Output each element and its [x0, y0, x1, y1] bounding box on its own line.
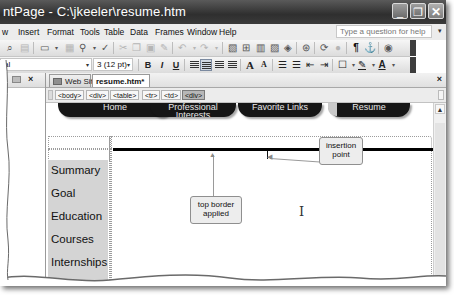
stop-icon[interactable]: ●	[332, 42, 344, 54]
toolbar-separator	[272, 59, 273, 71]
menu-insert[interactable]: Insert	[18, 27, 39, 37]
insert-drawing-icon[interactable]: ◈	[282, 42, 294, 54]
bold-button[interactable]: B	[142, 59, 154, 71]
help-dropdown-icon[interactable]: ▾	[438, 27, 442, 35]
toolbar-separator	[378, 42, 379, 54]
callout-text: applied	[193, 209, 239, 218]
tag-div-selected[interactable]: <div>	[182, 90, 205, 100]
vertical-scrollbar[interactable]: ▲	[433, 103, 446, 286]
bookmark-icon[interactable]: ⚓	[364, 42, 376, 54]
justify-button[interactable]	[226, 59, 238, 71]
menu-view[interactable]: w	[2, 27, 8, 37]
insert-table-icon[interactable]: ⊞	[240, 42, 252, 54]
tab-web-site[interactable]: Web Site	[49, 74, 91, 87]
tab-label: resume.htm*	[96, 77, 144, 86]
close-button[interactable]: ✕	[428, 3, 444, 19]
torn-edge	[0, 270, 446, 286]
torn-edge-left	[0, 60, 14, 280]
restore-button[interactable]: ❐	[410, 3, 426, 19]
toolbar-options-grip[interactable]	[410, 57, 416, 73]
menu-format[interactable]: Format	[47, 27, 74, 37]
insert-layer-icon[interactable]: ▧	[226, 42, 238, 54]
side-item-goal[interactable]: Goal	[51, 187, 75, 199]
format-painter-icon[interactable]: ✎	[158, 42, 170, 54]
align-left-icon	[190, 61, 199, 69]
underline-button[interactable]: U	[170, 59, 182, 71]
tag-tr[interactable]: <tr>	[142, 90, 160, 100]
italic-button[interactable]: I	[156, 59, 168, 71]
menu-data[interactable]: Data	[130, 27, 148, 37]
paste-icon[interactable]: ▣	[144, 42, 156, 54]
align-right-icon	[215, 61, 224, 69]
top-border-line	[113, 148, 433, 151]
content-cell[interactable]	[110, 149, 432, 286]
scroll-thumb[interactable]	[435, 123, 445, 283]
design-view[interactable]: Home Professional Interests Favorite Lin…	[46, 103, 446, 286]
redo-icon[interactable]: ↷	[198, 42, 210, 54]
side-item-education[interactable]: Education	[51, 210, 102, 222]
side-item-internships[interactable]: Internships	[51, 256, 107, 268]
increase-font-button[interactable]: A	[244, 59, 256, 71]
undo-icon[interactable]: ↶	[176, 42, 188, 54]
menu-window[interactable]: Window	[187, 27, 217, 37]
column-divider	[109, 136, 112, 286]
minimize-button[interactable]: _	[392, 3, 408, 19]
insert-frame-icon[interactable]: ▥	[254, 42, 266, 54]
tag-bar-scroll[interactable]	[438, 90, 444, 100]
tag-table[interactable]: <table>	[110, 90, 139, 100]
toolbar-options-grip[interactable]	[410, 40, 416, 56]
numbering-icon[interactable]: ☰	[276, 59, 288, 71]
refresh-icon[interactable]: ⟳	[318, 42, 330, 54]
document-tabs: Web Site resume.htm* ×	[46, 73, 446, 88]
table-cell[interactable]	[48, 136, 110, 149]
chevron-down-icon: ▾	[86, 59, 89, 71]
menu-tools[interactable]: Tools	[80, 27, 100, 37]
nav-button-favorite-links[interactable]: Favorite Links	[238, 103, 322, 117]
show-all-icon[interactable]: ¶	[350, 42, 362, 54]
print-preview-icon[interactable]: ▤	[18, 42, 30, 54]
insert-picture-icon[interactable]: ▨	[268, 42, 280, 54]
tag-div[interactable]: <div>	[86, 90, 109, 100]
nav-button-resume[interactable]: Resume	[328, 103, 410, 117]
dropdown-icon[interactable]: ▾	[50, 42, 62, 54]
align-center-button[interactable]	[200, 59, 212, 71]
increase-indent-icon[interactable]: ⇥	[318, 59, 330, 71]
menu-help[interactable]: Help	[219, 27, 236, 37]
toolbar-separator	[172, 42, 173, 54]
formatting-toolbar: al ▾ 3 (12 pt) ▾ B I U A A ☰ ☰ ⇤ ⇥ ☐ ▾ ✎…	[0, 57, 410, 74]
search-icon[interactable]: ⚲	[76, 42, 88, 54]
view-icon[interactable]: ▭	[38, 42, 50, 54]
bullets-icon[interactable]: ☰	[290, 59, 302, 71]
font-size-select[interactable]: 3 (12 pt) ▾	[93, 58, 133, 71]
menu-table[interactable]: Table	[104, 27, 124, 37]
spelling-icon[interactable]: ✓	[99, 42, 111, 54]
tab-resume[interactable]: resume.htm*	[92, 74, 150, 87]
align-right-button[interactable]	[213, 59, 225, 71]
tag-body[interactable]: <body>	[55, 90, 84, 100]
tag-td[interactable]: <td>	[161, 90, 181, 100]
menu-frames[interactable]: Frames	[155, 27, 184, 37]
side-item-courses[interactable]: Courses	[51, 233, 94, 245]
scroll-up-icon[interactable]: ▲	[435, 104, 445, 114]
side-item-summary[interactable]: Summary	[51, 164, 100, 176]
close-document-button[interactable]: ×	[437, 74, 442, 84]
tag-bar-grip[interactable]	[48, 90, 53, 100]
decrease-indent-icon[interactable]: ⇤	[304, 59, 316, 71]
align-left-button[interactable]	[188, 59, 200, 71]
cut-icon[interactable]: ✂	[117, 42, 129, 54]
align-center-icon	[202, 62, 211, 70]
pane-close-button[interactable]: ×	[28, 74, 33, 84]
dropdown-icon[interactable]: ▾	[210, 42, 222, 54]
binoculars-icon[interactable]: ⌕	[4, 42, 16, 54]
publish-icon[interactable]: ▦	[63, 42, 75, 54]
nav-button-professional-interests[interactable]: Professional Interests	[150, 103, 236, 117]
toolbar-separator	[138, 59, 139, 71]
help-question-input[interactable]: Type a question for help	[336, 25, 432, 38]
dropdown-icon[interactable]: ▾	[387, 59, 399, 71]
callout-text: top border	[193, 200, 239, 209]
copy-icon[interactable]: ❐	[130, 42, 142, 54]
decrease-font-button[interactable]: A	[258, 59, 270, 71]
toolbar-separator	[184, 59, 185, 71]
hyperlink-icon[interactable]: ⊛	[300, 42, 312, 54]
help-icon[interactable]: ◉	[382, 42, 394, 54]
